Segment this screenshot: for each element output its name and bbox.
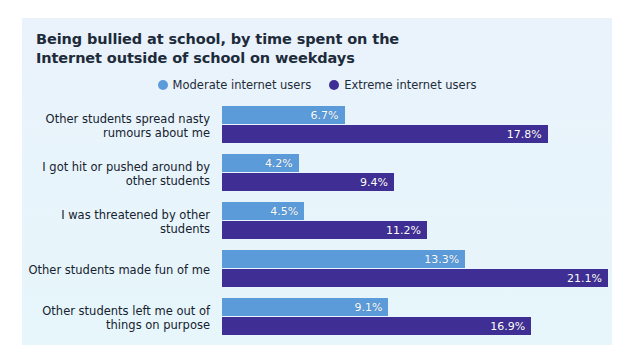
category-bars: 9.1%16.9% [222,298,612,337]
chart-category-group: Other students spread nastyrumours about… [22,106,612,145]
category-label-line: I got hit or pushed around by [42,160,210,174]
bar-moderate[interactable]: 4.2% [222,154,299,172]
bar-value-label: 21.1% [567,272,602,285]
category-label: I was threatened by otherstudents [22,202,218,241]
chart-category-group: Other students made fun of me13.3%21.1% [22,250,612,289]
bar-value-label: 9.1% [355,301,383,314]
legend-item-extreme[interactable]: Extreme internet users [329,78,476,92]
chart-title-line-1: Being bullied at school, by time spent o… [36,30,576,49]
bar-moderate[interactable]: 13.3% [222,250,465,268]
chart-canvas: Being bullied at school, by time spent o… [0,0,632,361]
bar-extreme[interactable]: 9.4% [222,173,394,191]
chart-category-group: Other students left me out ofthings on p… [22,298,612,337]
bar-value-label: 6.7% [311,109,339,122]
category-label-line: Other students left me out of [42,304,210,318]
category-label-line: Other students spread nasty [46,112,210,126]
category-label-line: students [160,222,210,236]
category-label-line: things on purpose [106,318,210,332]
chart-title-line-2: Internet outside of school on weekdays [36,49,576,68]
legend-label-moderate: Moderate internet users [173,78,312,92]
bar-value-label: 17.8% [507,128,542,141]
bar-value-label: 4.5% [270,205,298,218]
category-label-line: other students [126,174,210,188]
bar-extreme[interactable]: 21.1% [222,269,608,287]
bar-value-label: 13.3% [424,253,459,266]
category-label: Other students left me out ofthings on p… [22,298,218,337]
bar-value-label: 4.2% [265,157,293,170]
category-bars: 4.5%11.2% [222,202,612,241]
bar-moderate[interactable]: 4.5% [222,202,304,220]
category-label: Other students spread nastyrumours about… [22,106,218,145]
category-label-line: rumours about me [103,126,210,140]
bar-extreme[interactable]: 17.8% [222,125,548,143]
chart-title: Being bullied at school, by time spent o… [36,30,576,68]
bar-extreme[interactable]: 16.9% [222,317,531,335]
category-label: I got hit or pushed around byother stude… [22,154,218,193]
bar-extreme[interactable]: 11.2% [222,221,427,239]
category-bars: 13.3%21.1% [222,250,612,289]
legend-label-extreme: Extreme internet users [344,78,476,92]
bar-value-label: 16.9% [490,320,525,333]
bar-moderate[interactable]: 9.1% [222,298,388,316]
category-label-line: Other students made fun of me [29,263,211,277]
chart-plot-area: Other students spread nastyrumours about… [22,106,612,338]
bar-moderate[interactable]: 6.7% [222,106,345,124]
chart-panel: Being bullied at school, by time spent o… [22,18,612,345]
category-label-line: I was threatened by other [61,208,210,222]
bar-value-label: 11.2% [386,224,421,237]
chart-category-group: I got hit or pushed around byother stude… [22,154,612,193]
category-bars: 4.2%9.4% [222,154,612,193]
chart-legend: Moderate internet users Extreme internet… [22,78,612,92]
legend-swatch-moderate-icon [158,80,168,90]
chart-category-group: I was threatened by otherstudents4.5%11.… [22,202,612,241]
category-bars: 6.7%17.8% [222,106,612,145]
bar-value-label: 9.4% [360,176,388,189]
category-label: Other students made fun of me [22,250,218,289]
legend-item-moderate[interactable]: Moderate internet users [158,78,312,92]
legend-swatch-extreme-icon [329,80,339,90]
